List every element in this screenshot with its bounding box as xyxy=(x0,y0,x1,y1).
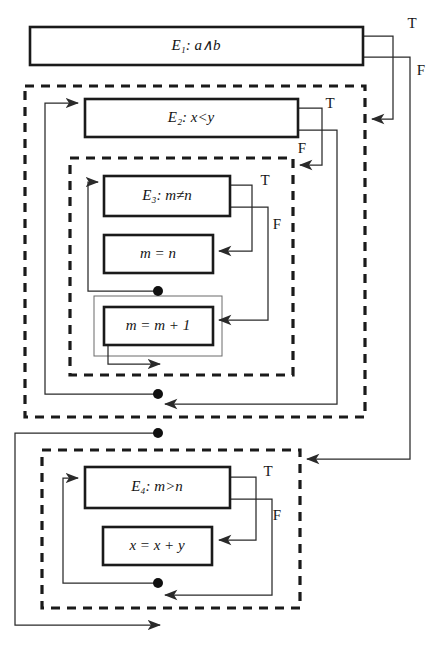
node-label-A1: m = n xyxy=(140,245,176,261)
branch-label-e4-true: T xyxy=(263,463,272,479)
edge-entry-e4 xyxy=(63,478,78,486)
node-label-E4: E₄: m>n xyxy=(130,478,183,494)
flowchart-diagram: E₁: a∧b E₂: x<y E₃: m≠n m = n m = m + 1 … xyxy=(0,0,438,655)
branch-label-e1-true: T xyxy=(407,15,416,31)
junction-dot-inner-body xyxy=(153,286,163,296)
edge-e3-false xyxy=(219,207,268,320)
flowchart-canvas: E₁: a∧b E₂: x<y E₃: m≠n m = n m = m + 1 … xyxy=(0,0,438,655)
node-label-E2: E₂: x<y xyxy=(167,109,215,125)
edge-e1-true xyxy=(363,36,393,119)
edge-entry-e2 xyxy=(45,103,78,110)
node-label-A2: m = m + 1 xyxy=(126,317,190,333)
edge-e2-true xyxy=(298,108,322,165)
edge-entry-e3 xyxy=(88,182,98,186)
node-label-A3: x = x + y xyxy=(128,537,185,553)
node-label-E1: E₁: a∧b xyxy=(170,37,221,53)
junction-dot-bottom-body xyxy=(153,578,163,588)
branch-label-e1-false: F xyxy=(417,62,425,78)
branch-label-e2-false: F xyxy=(298,140,306,156)
edge-a2-continue xyxy=(108,345,160,364)
branch-label-e3-false: F xyxy=(273,216,281,232)
branch-label-e4-false: F xyxy=(273,507,281,523)
branch-label-e2-true: T xyxy=(325,95,334,111)
junction-dot-outer-body xyxy=(153,389,163,399)
node-label-E3: E₃: m≠n xyxy=(141,187,192,203)
branch-label-e3-true: T xyxy=(260,172,269,188)
junction-dot-seq-mid xyxy=(153,428,163,438)
